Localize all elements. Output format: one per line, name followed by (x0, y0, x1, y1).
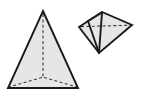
left-pyramid-group (8, 11, 78, 88)
geometry-figure-canvas (0, 0, 143, 99)
left-pyramid-front-face-fill (8, 11, 78, 88)
right-pyramid-group (79, 12, 132, 53)
geometry-figure-svg (0, 0, 143, 99)
